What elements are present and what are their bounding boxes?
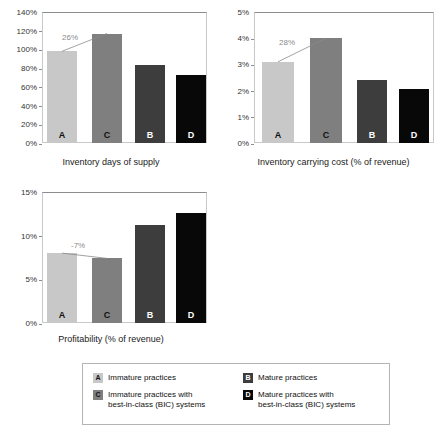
chart3-caption: Profitability (% of revenue) xyxy=(0,334,222,344)
annotation-label-chart1: 26% xyxy=(62,33,78,42)
annotation-connector-chart2 xyxy=(222,0,445,178)
chart2-caption: Inventory carrying cost (% of revenue) xyxy=(222,157,445,167)
annotation-label-chart2: 28% xyxy=(279,38,295,47)
legend-label-b: Mature practices xyxy=(258,373,317,383)
legend-label-d-line2: best-in-class (BIC) systems xyxy=(258,400,355,409)
legend-box: A Immature practices C Immature practice… xyxy=(82,363,390,425)
legend-label-c-line2: best-in-class (BIC) systems xyxy=(108,400,205,409)
annotation-label-chart3: -7% xyxy=(71,241,85,250)
legend-label-d: Mature practices with best-in-class (BIC… xyxy=(258,390,355,409)
legend-label-d-line1: Mature practices with xyxy=(258,390,334,399)
chart-inventory-days-of-supply: 140% 120% 100% 80% 60% 40% 20% 0% A C B … xyxy=(0,0,222,178)
chart1-caption: Inventory days of supply xyxy=(0,157,222,167)
legend-swatch-c-icon: C xyxy=(93,390,103,400)
legend-swatch-d-icon: D xyxy=(243,390,253,400)
legend-label-a: Immature practices xyxy=(108,373,176,383)
annotation-connector-chart3 xyxy=(0,178,222,353)
legend-item-d: D Mature practices with best-in-class (B… xyxy=(243,390,388,409)
annotation-connector-chart1 xyxy=(0,0,222,178)
legend-item-c: C Immature practices with best-in-class … xyxy=(93,390,243,409)
legend-label-c-line1: Immature practices with xyxy=(108,390,192,399)
legend-swatch-a-icon: A xyxy=(93,373,103,383)
legend-swatch-b-icon: B xyxy=(243,373,253,383)
legend-column-left: A Immature practices C Immature practice… xyxy=(93,373,243,416)
legend-item-b: B Mature practices xyxy=(243,373,388,383)
legend-item-a: A Immature practices xyxy=(93,373,243,383)
chart-inventory-carrying-cost: 5% 4% 3% 2% 1% 0% A C B D 28% Inventory … xyxy=(222,0,445,178)
legend-column-right: B Mature practices D Mature practices wi… xyxy=(243,373,388,416)
legend-label-c: Immature practices with best-in-class (B… xyxy=(108,390,205,409)
chart-profitability: 15% 10% 5% 0% A C B D -7% Profitability … xyxy=(0,178,222,353)
